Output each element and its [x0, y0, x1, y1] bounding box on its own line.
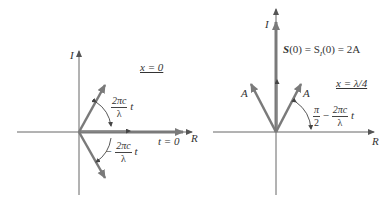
left-upper-angle-arc [96, 102, 111, 126]
left-vector-upper [79, 85, 105, 132]
right-left-A-label: A [241, 88, 248, 99]
left-diagram [17, 51, 192, 195]
left-upper-angle-label: 2πcλ t [111, 96, 133, 119]
right-diagram [213, 9, 374, 195]
right-axis-r-label: R [372, 136, 379, 147]
left-lower-angle-label: − 2πcλ t [105, 141, 137, 164]
right-right-A-label: A [303, 88, 310, 99]
right-angle-label: π2 − 2πcλ t [313, 105, 354, 128]
right-axis-i-label: I [265, 19, 269, 30]
left-axis-r-label: R [191, 133, 198, 144]
left-axis-i-label: I [70, 50, 74, 61]
left-vector-lower [79, 132, 105, 178]
right-sum-label: S(0) = SI(0) = 2A [283, 44, 360, 58]
right-angle-arc [296, 102, 311, 129]
right-vector-right-A [276, 84, 301, 132]
left-position-label: x = 0 [140, 62, 163, 73]
right-vector-left-A [251, 84, 276, 132]
left-time-label: t = 0 [158, 136, 179, 147]
right-position-label: x = λ/4 [336, 78, 367, 89]
